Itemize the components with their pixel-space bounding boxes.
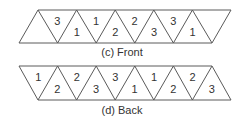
front-caption: (c) Front (101, 46, 143, 58)
triangle-label: 1 (190, 26, 196, 38)
triangle-label: 2 (132, 15, 138, 27)
back-strip: 1223311223 (19, 66, 231, 100)
triangle-label: 2 (170, 83, 176, 95)
triangle-label: 3 (112, 71, 118, 83)
triangle-label: 3 (151, 26, 157, 38)
triangle-edge (19, 10, 38, 43)
triangle-label: 2 (112, 26, 118, 38)
triangle-label: 1 (35, 71, 41, 83)
triangle-label: 3 (93, 83, 99, 95)
triangle-label: 2 (190, 71, 196, 83)
front-strip: 31122331 (19, 10, 231, 43)
triangle-label: 3 (54, 15, 60, 27)
back-caption: (d) Back (102, 104, 143, 116)
triangle-label: 1 (151, 71, 157, 83)
triangle-edge (212, 10, 231, 43)
hexaflexagon-diagram: 31122331 (c) Front 1223311223 (d) Back (0, 0, 244, 123)
triangle-label: 3 (209, 83, 215, 95)
triangle-label: 1 (132, 83, 138, 95)
triangle-label: 2 (74, 71, 80, 83)
triangle-label: 1 (74, 26, 80, 38)
triangle-label: 2 (54, 83, 60, 95)
triangle-label: 3 (170, 15, 176, 27)
triangle-label: 1 (93, 15, 99, 27)
